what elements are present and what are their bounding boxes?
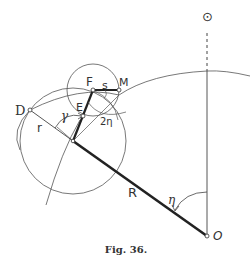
two-eta-arc-1: [88, 102, 126, 114]
label-O: O: [213, 230, 222, 242]
curve-through-center: [46, 120, 80, 205]
label-D: D: [15, 104, 25, 117]
label-R: R: [128, 186, 137, 199]
orbit-arc-upper: [119, 71, 250, 95]
label-two-eta: 2η: [100, 117, 113, 127]
point-D: [28, 108, 32, 112]
sun-symbol-icon: ⊙: [202, 10, 213, 23]
point-E: [81, 114, 85, 118]
label-M: M: [119, 77, 129, 88]
label-r: r: [37, 122, 42, 134]
label-F: F: [86, 76, 93, 88]
eta-arc: [175, 192, 207, 210]
point-center: [71, 139, 75, 143]
R-line: [73, 141, 207, 236]
label-gamma: γ: [61, 110, 68, 122]
point-O: [205, 234, 209, 238]
label-eta: η: [168, 194, 175, 206]
label-E: E: [76, 102, 83, 113]
label-s: s: [102, 80, 108, 91]
figure-caption: Fig. 36.: [0, 244, 252, 255]
figure-36: ⊙ D E F M s r γ 2η R η O Fig. 36.: [0, 0, 252, 261]
